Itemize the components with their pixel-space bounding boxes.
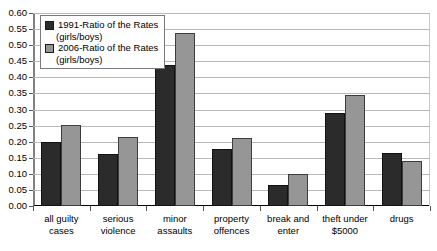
x-axis-tick-mark	[33, 206, 34, 211]
legend-sublabel-1991: (girls/boys)	[45, 31, 158, 43]
y-axis-tick-label: 0.50	[0, 40, 27, 50]
bar-1991	[41, 142, 61, 206]
y-axis-tick-label: 0.35	[0, 89, 27, 99]
y-axis-tick-label: 0.55	[0, 24, 27, 34]
bar-chart: 0.600.550.500.450.400.350.300.250.200.15…	[0, 0, 437, 251]
x-axis-tick-mark	[146, 206, 147, 211]
x-axis-tick-mark	[90, 206, 91, 211]
y-axis-tick-label: 0.30	[0, 105, 27, 115]
x-axis-label: drugs	[373, 213, 430, 237]
legend-label-2006: 2006-Ratio of the Rates	[58, 42, 158, 54]
y-axis-tick-label: 0.20	[0, 137, 27, 147]
legend-swatch-2006-icon	[45, 44, 54, 53]
bar-2006	[288, 174, 308, 206]
bar-2006	[232, 138, 252, 206]
bar-group	[203, 13, 260, 206]
bar-1991	[325, 113, 345, 206]
bar-2006	[175, 33, 195, 206]
y-axis-tick-label: 0.25	[0, 121, 27, 131]
bar-1991	[155, 65, 175, 206]
y-axis-tick-label: 0.15	[0, 153, 27, 163]
x-axis-tick-mark	[373, 206, 374, 211]
x-axis-label: break andenter	[260, 213, 317, 237]
legend-swatch-1991-icon	[45, 21, 54, 30]
bar-1991	[268, 185, 288, 206]
bar-1991	[212, 149, 232, 206]
legend-sublabel-2006: (girls/boys)	[45, 54, 158, 66]
y-axis-tick-label: 0.60	[0, 8, 27, 18]
y-axis-tick-label: 0.45	[0, 57, 27, 67]
bar-1991	[382, 153, 402, 206]
bar-group	[373, 13, 430, 206]
bar-2006	[402, 161, 422, 206]
legend-entry-2006: 2006-Ratio of the Rates	[45, 42, 158, 54]
x-axis-tick-mark	[430, 206, 431, 211]
bar-1991	[98, 154, 118, 206]
bar-group	[260, 13, 317, 206]
y-axis-tick-label: 0.05	[0, 185, 27, 195]
y-axis-tick-label: 0.10	[0, 169, 27, 179]
x-axis-label: seriousviolence	[90, 213, 147, 237]
legend-entry-1991: 1991-Ratio of the Rates	[45, 19, 158, 31]
x-axis-label: minorassaults	[146, 213, 203, 237]
x-axis-ticks	[33, 206, 430, 211]
x-axis-tick-mark	[317, 206, 318, 211]
x-axis-label: propertyoffences	[203, 213, 260, 237]
legend-label-1991: 1991-Ratio of the Rates	[58, 19, 158, 31]
x-axis-labels: all guiltycasesseriousviolenceminorassau…	[33, 213, 430, 237]
y-axis-tick-label: 0.40	[0, 73, 27, 83]
bar-group	[317, 13, 374, 206]
x-axis-label: all guiltycases	[33, 213, 90, 237]
x-axis-tick-mark	[203, 206, 204, 211]
x-axis-label: theft under$5000	[317, 213, 374, 237]
x-axis-tick-mark	[260, 206, 261, 211]
bar-2006	[118, 137, 138, 206]
y-axis-tick-label: 0.00	[0, 201, 27, 211]
chart-legend: 1991-Ratio of the Rates (girls/boys) 200…	[40, 15, 165, 69]
bar-2006	[345, 95, 365, 206]
bar-2006	[61, 125, 81, 206]
